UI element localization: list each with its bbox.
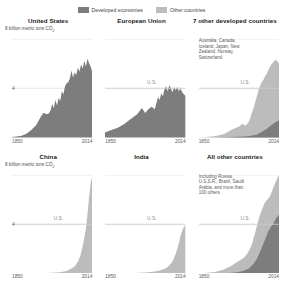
panel-title-india: India	[97, 153, 185, 162]
panel-european-union: European Union U.S. 1850 2014	[97, 17, 185, 149]
x-tick-start: 1850	[105, 139, 116, 145]
us-reference-label: U.S.	[147, 80, 156, 85]
legend-item-developed: Developed economies	[78, 7, 143, 13]
plot-area-united-states: 4	[12, 39, 92, 138]
x-axis-all-other-countries: 1850 2014	[199, 274, 279, 284]
plot-wrap-china: 4 U.S. 1850 2014	[4, 175, 92, 285]
panel-note-seven-other-developed-countries: Australia, Canada, Iceland, Japan, New Z…	[199, 38, 251, 60]
x-tick-end: 2014	[82, 274, 93, 280]
plot-wrap-european-union: U.S. 1850 2014	[97, 39, 185, 149]
us-reference-label: U.S.	[54, 216, 63, 221]
panel-units-spacer-european-union	[97, 26, 185, 39]
panel-title-united-states: United States	[4, 17, 92, 26]
us-reference-label: U.S.	[240, 80, 249, 85]
area-other-countries	[105, 225, 185, 273]
panel-title-european-union: European Union	[97, 17, 185, 26]
x-tick-start: 1850	[105, 274, 116, 280]
area-chart-india	[105, 175, 185, 274]
area-chart-european-union	[105, 39, 185, 138]
x-tick-end: 2014	[175, 274, 186, 280]
y-tick-4: 4	[12, 221, 15, 226]
area-chart-united-states	[12, 39, 92, 138]
legend-swatch-developed-icon	[78, 7, 89, 13]
x-tick-end: 2014	[82, 139, 93, 145]
area-developed	[12, 59, 92, 138]
x-tick-start: 1850	[12, 139, 23, 145]
panel-title-all-other-countries: All other countries	[191, 153, 279, 162]
y-axis-units-label-china: 8 billion metric tons CO2	[4, 162, 92, 175]
panel-all-other-countries: All other countries Including Russia, U.…	[191, 153, 279, 285]
panel-seven-other-developed-countries: 7 other developed countries Australia, C…	[191, 17, 279, 149]
panel-china: China 8 billion metric tons CO2 4 U.S. 1…	[4, 153, 92, 285]
legend-swatch-other-icon	[156, 7, 167, 13]
panel-title-seven-other-developed-countries: 7 other developed countries	[191, 17, 279, 26]
legend-item-other: Other countries	[156, 7, 206, 13]
area-other-countries	[199, 60, 279, 138]
us-reference-label: U.S.	[147, 216, 156, 221]
panel-india: India U.S. 1850 2014	[97, 153, 185, 285]
x-tick-end: 2014	[268, 139, 279, 145]
us-reference-label: U.S.	[240, 216, 249, 221]
x-axis-european-union: 1850 2014	[105, 139, 185, 149]
x-axis-seven-other-developed-countries: 1850 2014	[199, 139, 279, 149]
plot-wrap-india: U.S. 1850 2014	[97, 175, 185, 285]
x-axis-india: 1850 2014	[105, 274, 185, 284]
x-tick-start: 1850	[12, 274, 23, 280]
panel-units-spacer-india	[97, 162, 185, 175]
panel-title-china: China	[4, 153, 92, 162]
x-tick-end: 2014	[175, 139, 186, 145]
plot-area-european-union: U.S.	[105, 39, 185, 138]
area-chart-china	[12, 175, 92, 274]
chart-legend: Developed economies Other countries	[0, 0, 283, 16]
area-developed	[105, 85, 185, 137]
x-tick-start: 1850	[199, 274, 210, 280]
plot-wrap-united-states: 4 1850 2014	[4, 39, 92, 149]
legend-label-developed: Developed economies	[92, 7, 143, 13]
plot-area-china: 4 U.S.	[12, 175, 92, 274]
y-axis-units-label: 8 billion metric tons CO2	[4, 26, 92, 39]
x-axis-china: 1850 2014	[12, 274, 92, 284]
y-tick-4: 4	[12, 86, 15, 91]
plot-area-india: U.S.	[105, 175, 185, 274]
x-axis-united-states: 1850 2014	[12, 139, 92, 149]
panel-note-all-other-countries: Including Russia, U.S.S.R., Brazil, Saud…	[199, 174, 251, 196]
legend-label-other: Other countries	[170, 7, 206, 13]
x-tick-end: 2014	[268, 274, 279, 280]
panel-united-states: United States 8 billion metric tons CO2 …	[4, 17, 92, 149]
small-multiples-grid: United States 8 billion metric tons CO2 …	[0, 16, 283, 286]
x-tick-start: 1850	[199, 139, 210, 145]
